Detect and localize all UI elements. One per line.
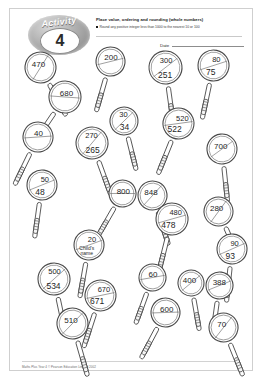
worksheet-title: Place value, ordering and rounding (whol… bbox=[96, 17, 242, 23]
worksheet-page: Activity 4 Place value, ordering and rou… bbox=[0, 0, 262, 380]
header-divider bbox=[96, 36, 242, 37]
worksheet-sheet: Activity 4 Place value, ordering and rou… bbox=[9, 8, 253, 371]
worksheet-objective: Round any positive integer less than 100… bbox=[100, 25, 200, 30]
objective-row: Round any positive integer less than 100… bbox=[96, 25, 242, 30]
header-text: Place value, ordering and rounding (whol… bbox=[96, 17, 242, 30]
